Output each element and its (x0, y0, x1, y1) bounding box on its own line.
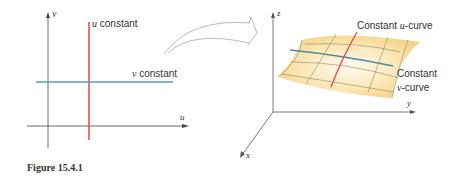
z-axis-label: z (277, 8, 281, 18)
z-axis-arrow-icon (271, 12, 275, 18)
v-constant-label: v constant (132, 68, 177, 79)
mapping-arrow-icon (164, 17, 257, 54)
constant-v-curve-label-line1: Constant (397, 68, 437, 79)
constant-u-curve-label: Constant u-curve (357, 20, 433, 31)
u-axis-arrow-icon (182, 124, 189, 128)
constant-v-curve-label-line2: v-curve (397, 82, 429, 93)
u-axis-label: u (180, 112, 185, 122)
x-axis (242, 112, 273, 155)
figure-caption: Figure 15.4.1 (27, 162, 83, 173)
left-uv-plane (27, 12, 189, 148)
v-axis-arrow-icon (46, 12, 50, 18)
y-axis-arrow-icon (410, 110, 416, 114)
u-constant-label: u constant (92, 18, 138, 29)
y-axis-label: y (407, 98, 411, 108)
v-axis-label: v (52, 8, 56, 19)
x-axis-label: x (246, 150, 250, 160)
right-xyz-space (240, 12, 420, 158)
